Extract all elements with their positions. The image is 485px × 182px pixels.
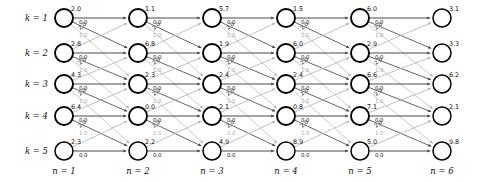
column-label-n4: n = 4 — [264, 166, 308, 176]
edge-arrowhead — [271, 82, 274, 85]
edge-arrowhead — [271, 149, 274, 152]
node-value-label: 2.3 — [71, 138, 81, 146]
node-value-label: 5.7 — [219, 5, 229, 13]
node-value-label: 7.1 — [367, 103, 377, 111]
edge-arrowhead — [345, 16, 348, 19]
branch-cost-diagonal-lower: 1.0 — [301, 98, 309, 104]
edge-arrowhead — [197, 51, 200, 54]
edge-arrowhead — [123, 149, 126, 152]
branch-cost-diagonal-lower: 1.0 — [153, 130, 161, 136]
node-value-label: 8.9 — [293, 138, 303, 146]
branch-cost-horizontal: 0.0 — [375, 152, 383, 158]
edge-arrowhead — [271, 51, 274, 54]
edge-arrowhead — [345, 114, 348, 117]
row-label-k3: k = 3 — [10, 79, 48, 89]
branch-cost-horizontal: 0.0 — [153, 152, 161, 158]
node-value-label: 6.0 — [367, 5, 377, 13]
node-value-label: 1.9 — [219, 40, 229, 48]
branch-cost-diagonal-lower: 1.0 — [301, 130, 309, 136]
branch-cost-diagonal-lower: 1.0 — [153, 98, 161, 104]
edge-arrowhead — [427, 149, 430, 152]
branch-cost-diagonal-lower: 1.0 — [79, 67, 87, 73]
edge-arrowhead — [271, 114, 274, 117]
edge-arrowhead — [345, 82, 348, 85]
edge-arrowhead — [345, 149, 348, 152]
node-value-label: 2.1 — [219, 103, 229, 111]
trellis-canvas — [0, 0, 485, 182]
node-value-label: 1.5 — [293, 5, 303, 13]
row-label-k2: k = 2 — [10, 48, 48, 58]
trellis-figure: 2.02.84.36.42.31.16.82.30.02.25.71.92.42… — [0, 0, 485, 182]
column-label-n2: n = 2 — [116, 166, 160, 176]
node-value-label: 6.8 — [145, 40, 155, 48]
node-value-label: 6.0 — [293, 40, 303, 48]
edge-arrowhead — [123, 16, 126, 19]
row-label-k4: k = 4 — [10, 111, 48, 121]
edge-arrowhead — [197, 114, 200, 117]
edge-arrowhead — [427, 51, 430, 54]
node-value-label: 3.3 — [449, 40, 459, 48]
column-label-n6: n = 6 — [420, 166, 464, 176]
branch-cost-diagonal-lower: 1.0 — [301, 67, 309, 73]
edge-arrowhead — [271, 16, 274, 19]
node-value-label: 6.2 — [449, 71, 459, 79]
branch-cost-diagonal-lower: 1.0 — [79, 32, 87, 38]
branch-cost-diagonal-lower: 1.0 — [79, 98, 87, 104]
branch-cost-diagonal-lower: 1.0 — [301, 32, 309, 38]
branch-cost-diagonal-lower: 1.0 — [375, 98, 383, 104]
node-value-label: 1.1 — [145, 5, 155, 13]
node-value-label: 5.0 — [367, 138, 377, 146]
edge-arrowhead — [429, 106, 432, 109]
branch-cost-horizontal: 0.0 — [301, 152, 309, 158]
edge-arrowhead — [123, 82, 126, 85]
node-value-label: 2.0 — [71, 5, 81, 13]
branch-cost-diagonal-lower: 1.0 — [375, 67, 383, 73]
branch-cost-diagonal-lower: 1.0 — [375, 32, 383, 38]
node-value-label: 2.2 — [145, 138, 155, 146]
branch-cost-horizontal: 0.0 — [79, 152, 87, 158]
row-label-k1: k = 1 — [10, 13, 48, 23]
edge-arrowhead — [427, 82, 430, 85]
edge-arrowhead — [197, 82, 200, 85]
node-value-label: 0.0 — [145, 103, 155, 111]
column-label-n1: n = 1 — [42, 166, 86, 176]
edge-arrowhead — [197, 149, 200, 152]
node-value-label: 4.9 — [219, 138, 229, 146]
branch-cost-horizontal: 0.0 — [227, 152, 235, 158]
edge-arrowhead — [197, 16, 200, 19]
branch-cost-diagonal-lower: 1.0 — [79, 130, 87, 136]
column-label-n5: n = 5 — [338, 166, 382, 176]
branch-cost-diagonal-lower: 1.0 — [227, 67, 235, 73]
edge-arrowhead — [427, 16, 430, 19]
node-value-label: 2.1 — [449, 103, 459, 111]
branch-cost-diagonal-lower: 1.0 — [227, 130, 235, 136]
node-value-label: 6.4 — [71, 103, 81, 111]
edge-arrowhead — [123, 51, 126, 54]
branch-cost-diagonal-lower: 1.0 — [153, 32, 161, 38]
edge-arrowhead — [123, 114, 126, 117]
edge-arrowhead — [427, 114, 430, 117]
node-value-label: 3.1 — [449, 5, 459, 13]
edge-arrowhead — [345, 51, 348, 54]
row-label-k5: k = 5 — [10, 146, 48, 156]
branch-cost-diagonal-lower: 1.0 — [375, 130, 383, 136]
branch-cost-diagonal-lower: 1.0 — [153, 67, 161, 73]
node-value-label: 0.8 — [293, 103, 303, 111]
node-value-label: 2.8 — [71, 40, 81, 48]
column-label-n3: n = 3 — [190, 166, 234, 176]
branch-cost-diagonal-lower: 1.0 — [227, 32, 235, 38]
node-value-label: 9.8 — [449, 138, 459, 146]
branch-cost-diagonal-lower: 1.0 — [227, 98, 235, 104]
node-value-label: 2.9 — [367, 40, 377, 48]
